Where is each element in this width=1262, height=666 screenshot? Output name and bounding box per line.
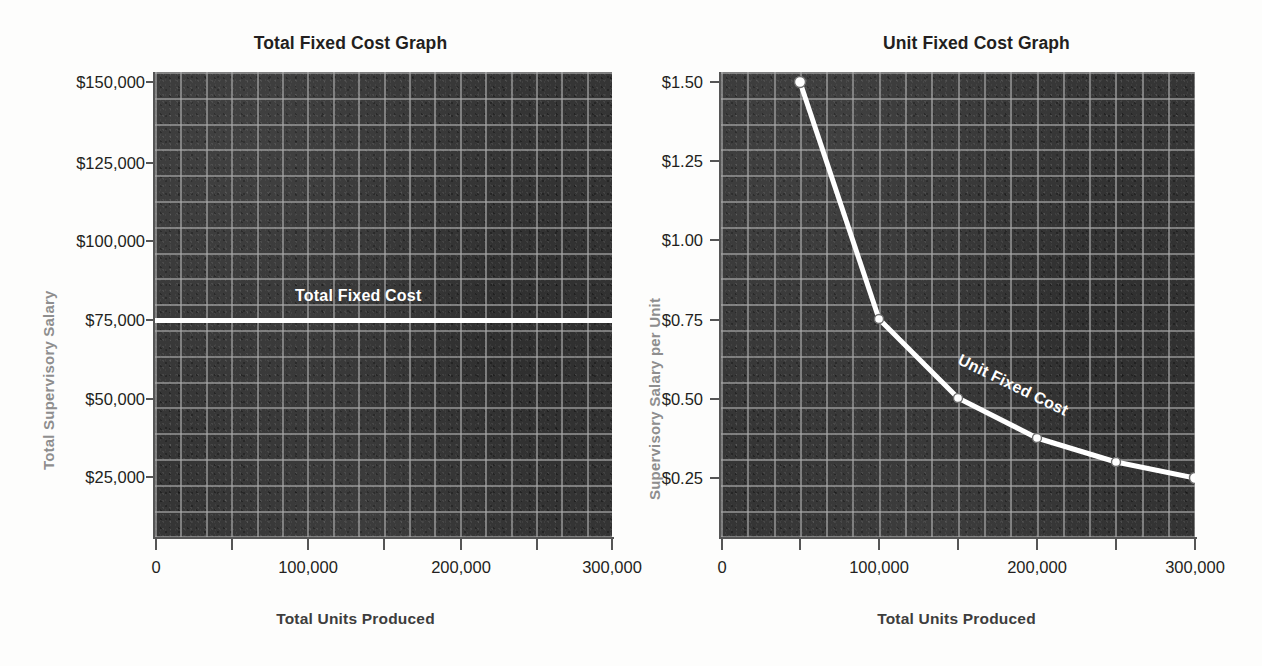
y-tick-label-1-25: $1.25 [631,152,703,171]
x-axis-title-total-units-produced: Total Units Produced [631,610,1262,628]
chart-unit-fixed-cost: Unit Fixed Cost Graph Supervisory Salary… [631,0,1262,666]
x-tick-mark-100000 [878,539,880,550]
series-line-unit-fixed-cost [800,82,1195,478]
x-tick-label-100000: 100,000 [849,558,909,577]
y-tick-label-0-50: $0.50 [631,390,703,409]
x-tick-mark-250000 [1115,539,1117,550]
x-tick-mark-300000 [611,539,613,550]
y-tick-label-50000: $50,000 [45,390,145,409]
series-line-total-fixed-cost [155,318,612,323]
data-point-200000 [1033,434,1042,443]
x-tick-label-200000: 200,000 [1007,558,1067,577]
y-tick-label-0-75: $0.75 [631,311,703,330]
chart-title-total-fixed-cost: Total Fixed Cost Graph [0,33,631,54]
y-axis-spine [719,72,721,539]
x-tick-label-300000: 300,000 [1165,558,1225,577]
data-point-50000 [795,77,806,88]
x-tick-label-0: 0 [151,558,160,577]
x-tick-mark-100000 [307,539,309,550]
x-tick-mark-0 [155,539,157,550]
data-point-300000 [1190,473,1196,484]
y-tick-label-1-00: $1.00 [631,231,703,250]
x-tick-mark-50000 [231,539,233,550]
y-tick-label-100000: $100,000 [45,232,145,251]
x-tick-mark-250000 [536,539,538,550]
y-tick-label-1-50: $1.50 [631,73,703,92]
y-axis-spine [153,72,155,539]
plot-area-unit-fixed-cost: Unit Fixed Cost [721,72,1195,537]
data-point-100000 [875,315,884,324]
x-tick-mark-300000 [1194,539,1196,550]
x-tick-label-0: 0 [717,558,726,577]
y-tick-label-0-25: $0.25 [631,469,703,488]
x-tick-label-100000: 100,000 [278,558,338,577]
y-tick-label-150000: $150,000 [45,73,145,92]
x-tick-mark-200000 [460,539,462,550]
x-tick-mark-150000 [383,539,385,550]
x-tick-mark-150000 [957,539,959,550]
y-tick-label-75000: $75,000 [45,311,145,330]
x-tick-mark-50000 [799,539,801,550]
y-tick-label-25000: $25,000 [45,468,145,487]
x-axis-title-total-units-produced: Total Units Produced [0,610,631,628]
series-unit-fixed-cost [721,72,1195,537]
y-tick-label-125000: $125,000 [45,154,145,173]
x-tick-mark-0 [721,539,723,550]
chart-title-unit-fixed-cost: Unit Fixed Cost Graph [631,33,1262,54]
plot-area-total-fixed-cost: Total Fixed Cost [155,72,612,537]
x-tick-mark-200000 [1036,539,1038,550]
data-point-150000 [954,394,963,403]
figure-canvas: Total Fixed Cost Graph Total Supervisory… [0,0,1262,666]
data-point-250000 [1112,458,1121,467]
chart-total-fixed-cost: Total Fixed Cost Graph Total Supervisory… [0,0,631,666]
x-tick-label-200000: 200,000 [431,558,491,577]
series-annotation-total-fixed-cost: Total Fixed Cost [295,287,421,305]
